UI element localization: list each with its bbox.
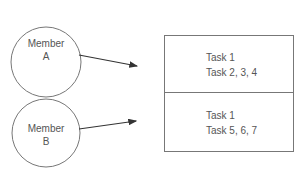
task-section-b: Task 1 Task 5, 6, 7 bbox=[206, 108, 257, 138]
arrow-a bbox=[79, 55, 137, 66]
task-line: Task 2, 3, 4 bbox=[206, 65, 257, 80]
member-a-line1: Member bbox=[16, 37, 76, 50]
member-a-label: Member A bbox=[16, 37, 76, 63]
task-line: Task 1 bbox=[206, 108, 257, 123]
member-b-label: Member B bbox=[16, 122, 76, 148]
arrow-b bbox=[79, 121, 136, 129]
member-a-line2: A bbox=[16, 50, 76, 63]
task-line: Task 5, 6, 7 bbox=[206, 123, 257, 138]
task-line: Task 1 bbox=[206, 50, 257, 65]
member-b-line2: B bbox=[16, 135, 76, 148]
member-b-line1: Member bbox=[16, 122, 76, 135]
task-section-a: Task 1 Task 2, 3, 4 bbox=[206, 50, 257, 80]
